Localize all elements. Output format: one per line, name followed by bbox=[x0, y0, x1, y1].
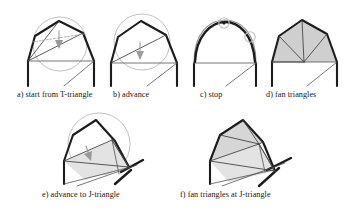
panel-c-diagram bbox=[182, 4, 270, 88]
caption-e: e) advance to J-triangle bbox=[42, 190, 120, 200]
caption-b: b) advance bbox=[113, 90, 149, 100]
panel-e-svg bbox=[55, 108, 160, 190]
tail-diagonal bbox=[64, 61, 94, 86]
panel-a-svg bbox=[18, 4, 110, 88]
panel-f-diagram bbox=[193, 108, 318, 190]
panel-b-diagram bbox=[100, 4, 192, 88]
panel-e-diagram bbox=[55, 108, 160, 190]
tail-diagonal bbox=[226, 63, 256, 86]
caption-a: a) start from T-triangle bbox=[17, 90, 93, 100]
panel-d-diagram bbox=[258, 4, 350, 88]
panel-b-svg bbox=[100, 4, 192, 88]
stop-vertex-dot bbox=[222, 21, 225, 24]
tail-diagonal bbox=[147, 63, 177, 86]
caption-d: d) fan triangles bbox=[266, 90, 316, 100]
panel-f-svg bbox=[193, 108, 318, 190]
figure-container: a) start from T-triangle b) advance bbox=[0, 0, 352, 212]
caption-c: c) stop bbox=[200, 90, 222, 100]
tail-diagonal bbox=[307, 62, 337, 86]
panel-c-svg bbox=[182, 4, 270, 88]
caption-f: f) fan triangles at J-triangle bbox=[180, 190, 271, 200]
arch-boundary bbox=[111, 21, 177, 63]
panel-a-diagram bbox=[18, 4, 110, 88]
advance-arrow bbox=[136, 42, 144, 60]
chord-to-right-vertex bbox=[111, 35, 166, 63]
panel-d-svg bbox=[258, 4, 350, 88]
chord-to-right-vertex bbox=[28, 33, 83, 61]
fan-fill-region bbox=[272, 20, 337, 62]
